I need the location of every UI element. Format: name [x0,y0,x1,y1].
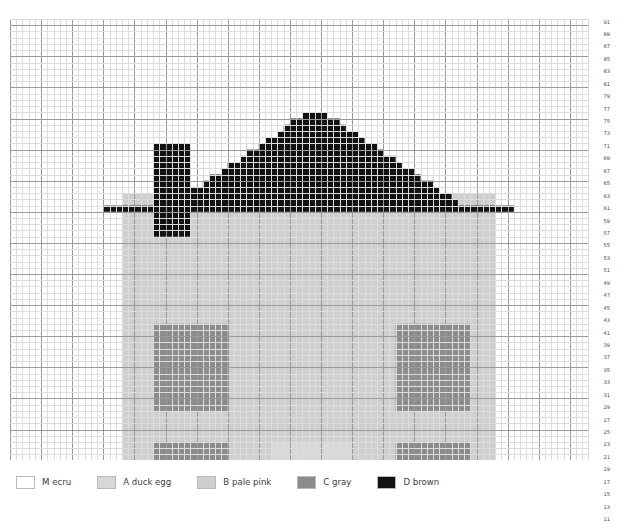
row-tick-33: 33 [604,380,610,385]
row-tick-77: 77 [604,107,610,112]
row-tick-31: 31 [604,393,610,398]
legend-label-m: M ecru [42,477,71,487]
row-tick-15: 15 [604,492,610,497]
legend-item-a: A duck egg [97,476,171,489]
pattern-chart [10,19,591,460]
row-tick-87: 87 [604,44,610,49]
row-tick-83: 83 [604,69,610,74]
row-tick-65: 65 [604,181,610,186]
row-tick-47: 47 [604,293,610,298]
legend-label-b: B pale pink [223,477,271,487]
row-tick-51: 51 [604,268,610,273]
row-tick-81: 81 [604,82,610,87]
row-tick-43: 43 [604,318,610,323]
row-tick-89: 89 [604,32,610,37]
row-tick-49: 49 [604,281,610,286]
legend-swatch-c [297,476,316,489]
row-tick-69: 69 [604,156,610,161]
legend-item-m: M ecru [16,476,71,489]
row-tick-25: 25 [604,430,610,435]
legend-swatch-m [16,476,35,489]
row-tick-67: 67 [604,169,610,174]
legend-item-b: B pale pink [197,476,271,489]
row-tick-59: 59 [604,219,610,224]
legend-swatch-d [377,476,396,489]
row-tick-85: 85 [604,57,610,62]
row-tick-23: 23 [604,442,610,447]
legend-swatch-b [197,476,216,489]
row-tick-57: 57 [604,231,610,236]
row-tick-17: 17 [604,480,610,485]
row-tick-55: 55 [604,243,610,248]
legend-swatch-a [97,476,116,489]
row-tick-27: 27 [604,418,610,423]
row-tick-37: 37 [604,355,610,360]
legend-label-c: C gray [323,477,351,487]
legend-label-a: A duck egg [123,477,171,487]
row-tick-91: 91 [604,20,610,25]
row-tick-21: 21 [604,455,610,460]
row-tick-29: 29 [604,405,610,410]
row-tick-41: 41 [604,331,610,336]
row-tick-39: 39 [604,343,610,348]
row-tick-13: 13 [604,505,610,510]
row-tick-61: 61 [604,206,610,211]
row-tick-75: 75 [604,119,610,124]
row-tick-35: 35 [604,368,610,373]
row-tick-19: 19 [604,467,610,472]
legend-item-c: C gray [297,476,351,489]
row-tick-45: 45 [604,306,610,311]
row-tick-71: 71 [604,144,610,149]
legend-label-d: D brown [403,477,439,487]
row-tick-11: 11 [604,517,610,522]
pixel-pattern-grid [10,19,591,460]
row-number-axis: 9189878583817977757371696765636159575553… [596,19,630,460]
row-tick-79: 79 [604,94,610,99]
legend-item-d: D brown [377,476,439,489]
row-tick-53: 53 [604,256,610,261]
row-tick-73: 73 [604,131,610,136]
color-legend: M ecruA duck eggB pale pinkC grayD brown [16,473,465,491]
row-tick-63: 63 [604,194,610,199]
